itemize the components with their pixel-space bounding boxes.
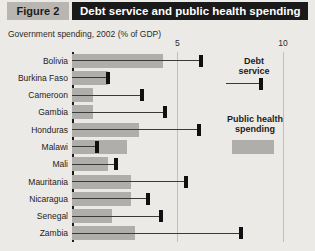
- debt-service-line: [72, 198, 148, 199]
- country-label-senegal: Senegal: [37, 211, 68, 221]
- debt-service-marker: [163, 106, 167, 118]
- country-label-zambia: Zambia: [40, 228, 68, 238]
- legend-debt-service-line2: service: [238, 66, 269, 76]
- debt-service-marker: [140, 89, 144, 101]
- debt-service-marker: [197, 124, 201, 136]
- chart-row: Nicaragua: [72, 190, 304, 207]
- debt-service-line: [72, 112, 165, 113]
- country-label-bolivia: Bolivia: [43, 56, 68, 66]
- chart-row: Cameroon: [72, 87, 304, 104]
- chart-subtitle: Government spending, 2002 (% of GDP): [8, 29, 161, 39]
- country-label-gambia: Gambia: [38, 107, 68, 117]
- legend-debt-service-marker-swatch: [259, 78, 263, 90]
- debt-service-marker: [159, 210, 163, 222]
- figure-title-bar: Debt service and public health spending: [72, 2, 308, 20]
- legend-debt-service-line1: Debt: [244, 56, 264, 66]
- debt-service-marker: [184, 176, 188, 188]
- country-label-malawi: Malawi: [42, 142, 68, 152]
- x-tick-label-5: 5: [175, 38, 180, 48]
- country-label-burkina-faso: Burkina Faso: [18, 73, 68, 83]
- debt-service-line: [72, 77, 108, 78]
- x-tick-label-10: 10: [278, 38, 287, 48]
- legend-public-health-label: Public health spending: [214, 114, 296, 134]
- figure-number-badge: Figure 2: [7, 2, 69, 20]
- figure-header: Figure 2 Debt service and public health …: [0, 0, 315, 22]
- debt-service-line: [72, 60, 201, 61]
- debt-service-line: [72, 129, 199, 130]
- country-label-mauritania: Mauritania: [28, 177, 68, 187]
- debt-service-line: [72, 164, 116, 165]
- legend-public-health-line2: spending: [235, 124, 275, 134]
- debt-service-marker: [239, 227, 243, 239]
- legend-public-health-bar-swatch: [232, 140, 274, 154]
- debt-service-marker: [95, 141, 99, 153]
- legend-debt-service-label: Debt service: [224, 56, 284, 76]
- debt-service-marker: [114, 158, 118, 170]
- debt-service-line: [72, 181, 186, 182]
- debt-service-line: [72, 95, 142, 96]
- chart-row: Senegal: [72, 207, 304, 224]
- debt-service-marker: [199, 55, 203, 67]
- country-label-cameroon: Cameroon: [28, 90, 68, 100]
- country-label-nicaragua: Nicaragua: [29, 194, 68, 204]
- debt-service-marker: [146, 193, 150, 205]
- country-label-mali: Mali: [52, 159, 68, 169]
- debt-service-marker: [106, 72, 110, 84]
- chart-row: Zambia: [72, 225, 304, 242]
- debt-service-line: [72, 146, 97, 147]
- legend-public-health-line1: Public health: [227, 114, 283, 124]
- legend-debt-service-line-swatch: [226, 83, 262, 84]
- figure-title: Debt service and public health spending: [80, 2, 300, 20]
- chart-row: Mali: [72, 156, 304, 173]
- debt-service-line: [72, 233, 241, 234]
- chart-row: Mauritania: [72, 173, 304, 190]
- country-label-honduras: Honduras: [31, 125, 68, 135]
- debt-service-line: [72, 216, 161, 217]
- figure-panel: Figure 2 Debt service and public health …: [0, 0, 315, 251]
